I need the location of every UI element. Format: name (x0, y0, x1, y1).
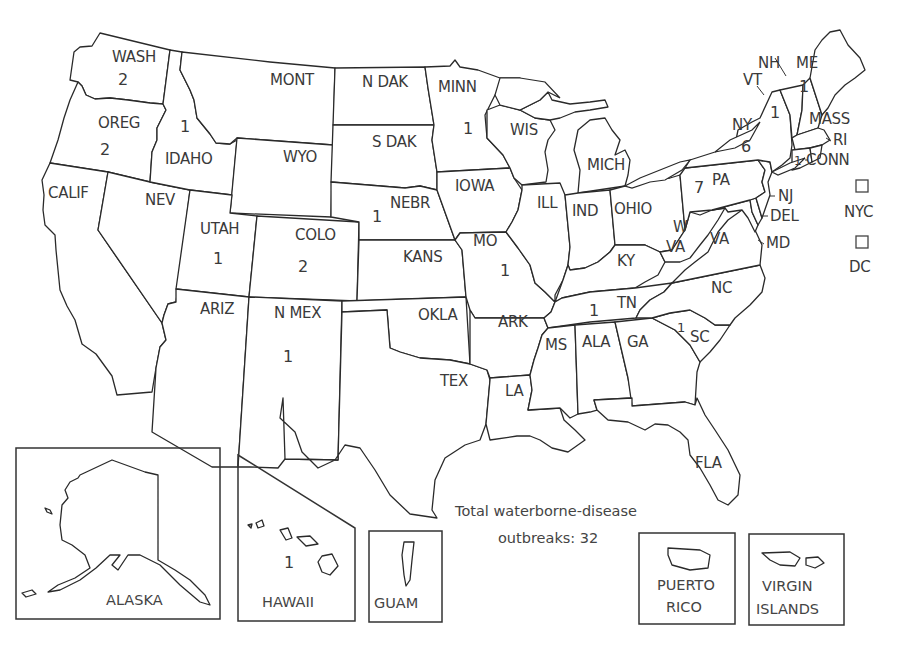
count-me: 1 (799, 77, 809, 96)
alaska-shape-icon (48, 460, 210, 605)
puerto-rico-shape-icon (668, 548, 710, 570)
label-oreg: OREG (98, 114, 140, 132)
label-va: VA (710, 230, 730, 248)
label-virgin-islands-2: ISLANDS (756, 601, 819, 617)
us-outbreak-map: WASH 2 OREG 2 CALIF 1 IDAHO NEV MONT WYO… (0, 0, 897, 649)
label-mont: MONT (270, 71, 315, 89)
inset-virgin-islands[interactable]: VIRGIN ISLANDS (749, 534, 844, 625)
label-ky: KY (617, 252, 636, 270)
label-virgin-islands-1: VIRGIN (762, 578, 813, 594)
count-conn: 1 (794, 154, 802, 168)
label-ms: MS (545, 336, 567, 354)
label-calif: CALIF (48, 184, 89, 202)
label-mo: MO (473, 232, 497, 250)
count-tn: 1 (589, 301, 599, 320)
label-ga: GA (627, 333, 649, 351)
label-ark: ARK (498, 313, 529, 331)
label-md: MD (766, 234, 790, 252)
label-nmex: N MEX (274, 304, 321, 322)
caption-line-2: outbreaks: 32 (498, 530, 598, 546)
label-alaska: ALASKA (106, 592, 163, 608)
label-nev: NEV (145, 191, 176, 209)
label-wva-va: VA (666, 238, 686, 256)
label-ala: ALA (582, 333, 611, 351)
label-ariz: ARIZ (200, 300, 234, 318)
count-mo: 1 (500, 261, 510, 280)
label-puerto-rico-2: RICO (666, 599, 702, 615)
label-kans: KANS (403, 248, 442, 266)
city-dc[interactable]: DC (849, 236, 870, 276)
label-nebr: NEBR (390, 194, 430, 212)
label-tn: TN (616, 294, 637, 312)
count-nebr: 1 (372, 207, 382, 226)
count-wash: 2 (118, 70, 128, 89)
label-wis: WIS (510, 121, 538, 139)
count-sc: 1 (677, 320, 685, 335)
hawaii-big-island-icon (318, 554, 338, 575)
label-wva-w: W (673, 218, 688, 236)
hawaii-island (297, 536, 318, 546)
count-pa: 7 (694, 178, 704, 197)
label-nj: NJ (778, 187, 793, 205)
count-colo: 2 (298, 257, 308, 276)
hawaii-island (280, 528, 292, 540)
label-ndak: N DAK (362, 73, 409, 91)
state-wyo[interactable] (230, 138, 333, 217)
guam-shape-icon (402, 542, 414, 586)
label-ind: IND (572, 202, 598, 220)
label-pa: PA (712, 171, 731, 189)
label-ohio: OHIO (614, 200, 652, 218)
count-idaho: 1 (180, 117, 190, 136)
label-iowa: IOWA (455, 177, 495, 195)
label-puerto-rico-1: PUERTO (657, 577, 715, 593)
label-idaho: IDAHO (165, 150, 213, 168)
alaska-island (22, 590, 36, 597)
virgin-island-small (806, 557, 824, 568)
state-me[interactable] (810, 30, 865, 115)
label-conn: CONN (806, 151, 850, 169)
label-ri: RI (833, 131, 847, 149)
inset-hawaii[interactable]: 1 HAWAII (238, 455, 355, 621)
label-dc: DC (849, 258, 870, 276)
inset-alaska[interactable]: ALASKA (16, 448, 220, 619)
label-sc: SC (690, 328, 709, 346)
hawaii-island (256, 520, 264, 528)
count-utah: 1 (213, 249, 223, 268)
dc-square-icon (856, 236, 868, 248)
count-hawaii: 1 (284, 553, 294, 572)
count-vt: 1 (770, 103, 780, 122)
label-wyo: WYO (283, 148, 317, 166)
label-ill: ILL (537, 194, 558, 212)
label-fla: FLA (695, 454, 723, 472)
count-ny: 6 (741, 137, 751, 156)
label-ny: NY (732, 116, 753, 134)
label-tex: TEX (439, 372, 468, 390)
nyc-square-icon (856, 180, 868, 192)
label-guam: GUAM (374, 595, 418, 611)
state-fla[interactable] (594, 398, 740, 505)
label-vt: VT (743, 71, 763, 89)
count-nmex: 1 (283, 347, 293, 366)
label-nyc: NYC (844, 203, 873, 221)
inset-puerto-rico[interactable]: PUERTO RICO (639, 533, 735, 624)
alaska-island (45, 508, 52, 514)
label-okla: OKLA (418, 306, 458, 324)
label-del: DEL (770, 207, 799, 225)
label-wash: WASH (112, 48, 156, 66)
label-nh: NH (758, 54, 780, 72)
hawaii-island (248, 524, 252, 528)
label-utah: UTAH (200, 220, 239, 238)
label-nc: NC (711, 279, 732, 297)
label-sdak: S DAK (372, 133, 418, 151)
caption-line-1: Total waterborne-disease (454, 503, 637, 519)
label-colo: COLO (295, 226, 336, 244)
inset-guam[interactable]: GUAM (369, 531, 442, 622)
label-minn: MINN (438, 78, 477, 96)
count-oreg: 2 (100, 140, 110, 159)
label-la: LA (505, 382, 524, 400)
virgin-islands-shape-icon (762, 552, 800, 566)
count-minn: 1 (463, 119, 473, 138)
label-mass: MASS (809, 110, 850, 128)
label-me: ME (796, 54, 818, 72)
city-nyc[interactable]: NYC (844, 180, 873, 221)
